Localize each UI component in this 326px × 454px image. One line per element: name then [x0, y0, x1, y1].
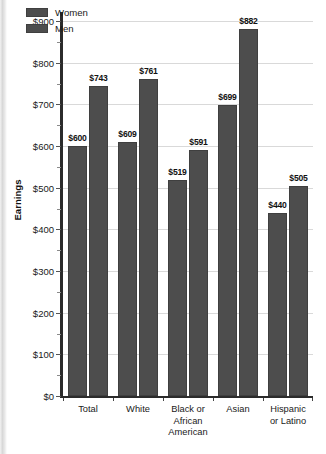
bar-value-label: $609: [118, 129, 136, 139]
y-tick-label: $600: [33, 141, 54, 152]
bar-value-label: $743: [89, 73, 107, 83]
x-category-label-line: or Latino: [270, 416, 306, 428]
y-tick-major: [56, 354, 61, 355]
bar-value-label: $600: [68, 133, 86, 143]
x-category-label: Black orAfricanAmerican: [168, 404, 207, 439]
y-tick-label: $0: [43, 391, 54, 402]
y-tick-label: $100: [33, 349, 54, 360]
y-tick-major: [56, 63, 61, 64]
y-tick-minor: [57, 209, 61, 210]
y-tick-minor: [57, 250, 61, 251]
y-tick-label: $400: [33, 224, 54, 235]
bar: [218, 105, 238, 396]
bar: [89, 86, 109, 396]
y-tick-label: $200: [33, 307, 54, 318]
y-axis-title: Earnings: [12, 179, 23, 220]
page-edge-artifact: [0, 0, 7, 454]
x-category-label-line: American: [168, 427, 207, 439]
x-tick: [63, 398, 64, 401]
bar-value-label: $699: [218, 92, 236, 102]
bar: [189, 150, 209, 396]
legend-item: Women: [26, 5, 88, 19]
legend: WomenMen: [26, 5, 88, 37]
x-tick: [263, 398, 264, 401]
x-axis-line: [60, 396, 313, 398]
legend-swatch: [26, 24, 48, 33]
plot-interior: $600$743$609$761$519$591$699$882$440$505: [63, 21, 313, 396]
bar-value-label: $882: [239, 16, 257, 26]
y-tick-label: $500: [33, 182, 54, 193]
y-tick-label: $300: [33, 266, 54, 277]
y-tick-label: $800: [33, 57, 54, 68]
bar: [268, 213, 288, 396]
plot-area: $600$743$609$761$519$591$699$882$440$505…: [63, 21, 313, 396]
bar-value-label: $591: [189, 137, 207, 147]
y-tick-major: [56, 146, 61, 147]
x-tick: [163, 398, 164, 401]
y-tick-minor: [57, 125, 61, 126]
x-category-label: Asian: [226, 404, 249, 416]
bar: [289, 186, 309, 396]
legend-swatch: [26, 8, 48, 17]
bar: [68, 146, 88, 396]
x-category-label-line: Black or: [168, 404, 207, 416]
x-tick: [113, 398, 114, 401]
x-category-label-line: White: [126, 404, 150, 416]
x-category-label: Total: [78, 404, 98, 416]
x-category-label-line: Hispanic: [270, 404, 306, 416]
y-tick-minor: [57, 292, 61, 293]
legend-item: Men: [26, 21, 88, 35]
y-tick-label: $700: [33, 99, 54, 110]
y-tick-major: [56, 271, 61, 272]
y-tick-minor: [57, 375, 61, 376]
x-category-label: Hispanicor Latino: [270, 404, 306, 427]
x-category-label: White: [126, 404, 150, 416]
bar-value-label: $519: [168, 167, 186, 177]
bar: [118, 142, 138, 396]
legend-label: Men: [55, 23, 74, 34]
bar-value-label: $505: [289, 173, 307, 183]
x-category-label-line: Total: [78, 404, 98, 416]
y-tick-major: [56, 313, 61, 314]
x-category-label-line: Asian: [226, 404, 249, 416]
x-category-label-line: African: [168, 416, 207, 428]
y-tick-minor: [57, 334, 61, 335]
bar: [139, 79, 159, 396]
y-tick-major: [56, 396, 61, 397]
gridline: [63, 63, 313, 64]
bar: [168, 180, 188, 396]
legend-label: Women: [55, 7, 88, 18]
bar-value-label: $761: [139, 66, 157, 76]
y-tick-minor: [57, 167, 61, 168]
y-tick-major: [56, 104, 61, 105]
y-tick-major: [56, 188, 61, 189]
bar: [239, 29, 259, 397]
chart-page: Earnings $600$743$609$761$519$591$699$88…: [0, 0, 326, 454]
y-tick-major: [56, 229, 61, 230]
y-axis-line: [60, 12, 63, 396]
x-tick: [213, 398, 214, 401]
bar-value-label: $440: [268, 200, 286, 210]
y-tick-minor: [57, 84, 61, 85]
gridline: [63, 21, 313, 22]
y-tick-minor: [57, 42, 61, 43]
x-tick: [312, 398, 313, 401]
